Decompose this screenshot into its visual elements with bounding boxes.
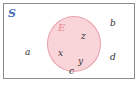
set-diagram-figure: S E z x y a b c d: [0, 0, 140, 89]
universal-set-label-S: S: [8, 8, 16, 19]
element-label-y: y: [78, 57, 83, 66]
element-label-c: c: [69, 67, 74, 76]
element-label-a: a: [25, 48, 30, 57]
element-label-d: d: [110, 53, 116, 62]
subset-label-E: E: [58, 23, 65, 33]
element-label-b: b: [110, 19, 116, 28]
subset-circle-E: [47, 16, 101, 72]
element-label-x: x: [58, 49, 63, 58]
element-label-z: z: [81, 32, 86, 41]
